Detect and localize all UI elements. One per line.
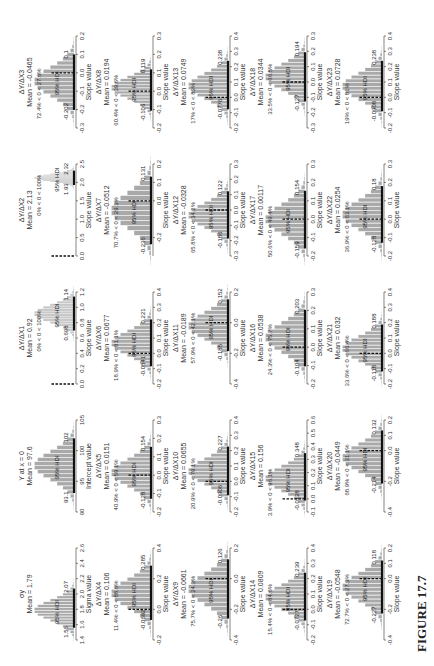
hdi-upper-value: 0.348	[294, 442, 300, 457]
hdi-upper-value: 0.131	[140, 166, 146, 181]
x-axis-label: Intercept value	[85, 402, 92, 530]
percent-label: 20.9% < 0 < 79.1%	[190, 458, 196, 509]
hdi-label: 95% HDI	[285, 209, 291, 233]
histogram-plot: 1.41.61.82.02.22.42.6	[18, 530, 95, 658]
percent-label: 3.9% < 0 < 96.1%	[267, 469, 273, 517]
percent-label: 11.4% < 0 < 88.6%	[113, 581, 119, 632]
x-axis-label: Slope value	[239, 402, 246, 530]
histogram-panel: ΔY/ΔX7Mean = -0.0512-0.20.00.10.270.7% <…	[95, 146, 172, 274]
hdi-upper-value: 0.221	[140, 308, 146, 323]
x-axis-label: Slope value	[316, 146, 323, 274]
hdi-upper-value: 2.32	[63, 163, 69, 175]
x-axis-label: Slope value	[393, 146, 400, 274]
hdi-label: 95% HDI	[208, 205, 214, 229]
percent-label: 17% < 0 < 83%	[190, 83, 196, 124]
x-axis-label: Slope value	[316, 402, 323, 530]
x-axis-label: Slope value	[316, 530, 323, 658]
hdi-label: 95% HDI	[285, 67, 291, 91]
hdi-upper-value: 0.126	[217, 548, 223, 563]
hdi-lower-value: 1.93	[63, 183, 69, 195]
hdi-lower-value: -0.106	[140, 104, 146, 121]
hdi-label: 95% HDI	[54, 455, 60, 479]
histogram-panel: ΔY/ΔX20Mean = -0.0449-0.4-0.20.00.10.268…	[326, 402, 403, 530]
percent-label: 57.9% < 0 < 42.1%	[190, 313, 196, 364]
x-axis-label: Slope value	[162, 146, 169, 274]
histogram-panel: ΔY/ΔX14Mean = 0.0809-0.2-0.10.00.10.20.3…	[249, 530, 326, 658]
hdi-upper-value: 0.239	[294, 562, 300, 577]
histogram-panel: ΔY/ΔX19Mean = -0.0548-0.4-0.20.00.10.272…	[326, 530, 403, 658]
hdi-lower-value: -0.0692	[140, 610, 146, 630]
histogram-panel: ΔY/ΔX3Mean = -0.0465-0.3-0.2-0.10.00.10.…	[18, 18, 95, 146]
percent-label: 50.6% < 0 < 49.4%	[267, 206, 273, 257]
x-axis-label: Slope value	[239, 146, 246, 274]
x-axis-label: Slope value	[85, 18, 92, 146]
hdi-upper-value: 0.119	[140, 59, 146, 74]
hdi-label: 95% HDI	[208, 579, 214, 603]
x-axis-label: Slope value	[393, 274, 400, 402]
hdi-lower-value: -0.202	[63, 103, 69, 120]
hdi-upper-value: 102	[63, 432, 69, 442]
hdi-lower-value: -0.227	[371, 606, 377, 623]
hdi-upper-value: 0.154	[140, 436, 146, 451]
hdi-upper-value: 0.238	[371, 50, 377, 65]
percent-label: 19% < 0 < 81%	[344, 83, 350, 124]
histogram-panel: ΔY/ΔX4Mean = 0.106-0.20.00.20.411.4% < 0…	[95, 530, 172, 658]
hdi-upper-value: 0.154	[294, 180, 300, 195]
hdi-label: 95% HDI	[285, 468, 291, 492]
percent-label: 36.9% < 0 < 63.1%	[344, 201, 350, 252]
x-axis-label: Slope value	[85, 146, 92, 274]
hdi-lower-value: 0.698	[63, 325, 69, 340]
hdi-upper-value: 0.188	[371, 314, 377, 329]
percent-label: 15.4% < 0 < 84.6%	[267, 584, 273, 635]
hdi-label: 95% HDI	[131, 200, 137, 224]
hdi-lower-value: -0.185	[217, 344, 223, 361]
hdi-upper-value: 0.1	[63, 50, 69, 58]
histogram-panel: ΔY/ΔX13Mean = 0.0749-0.2-0.10.00.10.20.3…	[172, 18, 249, 146]
histogram-panel: ΔY/ΔX12Mean = -0.0328-0.3-0.2-0.10.00.10…	[172, 146, 249, 274]
hdi-label: 95% HDI	[54, 168, 60, 192]
x-axis-label: Sigma value	[85, 530, 92, 658]
hdi-lower-value: -0.236	[140, 237, 146, 254]
hdi-label: 95% HDI	[362, 338, 368, 362]
hdi-lower-value: -0.104	[294, 359, 300, 376]
histogram-panel: ΔY/ΔX9Mean = -0.0661-0.4-0.20.00.275.7% …	[172, 530, 249, 658]
percent-label: 33.6% < 0 < 66.4%	[344, 335, 350, 386]
hdi-lower-value: -0.128	[371, 236, 377, 253]
histogram-panel: ΔY/ΔX5Mean = 0.0151-0.2-0.10.00.10.20.34…	[95, 402, 172, 530]
hdi-upper-value: 0.194	[294, 41, 300, 56]
hdi-lower-value: -0.118	[371, 365, 377, 382]
x-axis-label: Slope value	[85, 274, 92, 402]
hdi-upper-value: 0.227	[217, 436, 223, 451]
hdi-label: 95% HDI	[208, 461, 214, 485]
hdi-lower-value: -0.159	[294, 241, 300, 258]
histogram-panel: ΔY/ΔX15Mean = 0.156-0.10.00.10.20.30.40.…	[249, 402, 326, 530]
hdi-upper-value: 2.07	[63, 581, 69, 593]
histogram-panel: ΔY/ΔX17Mean = 0.00117-0.2-0.10.00.10.20.…	[249, 146, 326, 274]
hdi-label: 95% HDI	[362, 76, 368, 100]
hdi-upper-value: 0.285	[140, 555, 146, 570]
hdi-label: 95% HDI	[208, 316, 214, 340]
hdi-label: 95% HDI	[285, 587, 291, 611]
x-axis-label: Slope value	[162, 18, 169, 146]
percent-label: 40.9% < 0 < 59.1%	[113, 459, 119, 510]
percent-label: 68.9% < 0 < 31.1%	[344, 445, 350, 496]
figure-label: FIGURE 17.7	[414, 575, 430, 652]
histogram-panel: ΔY/ΔX10Mean = 0.0655-0.2-0.10.00.10.20.3…	[172, 402, 249, 530]
hdi-label: 95% HDI	[131, 333, 137, 357]
hdi-upper-value: 1.14	[63, 289, 69, 301]
percent-label: 70.7% < 0 < 29.3%	[113, 197, 119, 248]
hdi-label: 95% HDI	[285, 327, 291, 351]
hdi-lower-value: -0.0841	[140, 356, 146, 376]
hdi-upper-value: 0.152	[217, 288, 223, 303]
histogram-panel: ΔY/ΔX16Mean = 0.0538-0.2-0.10.00.10.20.3…	[249, 274, 326, 402]
percent-label: 24.3% < 0 < 75.7%	[267, 324, 273, 375]
hdi-label: 95% HDI	[54, 600, 60, 624]
hdi-upper-value: 0.132	[371, 419, 377, 434]
hdi-lower-value: -0.214	[371, 476, 377, 493]
percent-label: 18.9% < 0 < 81.1%	[113, 330, 119, 381]
hdi-label: 95% HDI	[362, 448, 368, 472]
hdi-lower-value: -0.128	[140, 492, 146, 509]
hdi-lower-value: 93.1	[63, 491, 69, 503]
histogram-plot: -0.10.00.10.20.30.40.50.6	[249, 402, 326, 530]
hdi-upper-value: 0.18	[371, 178, 377, 190]
